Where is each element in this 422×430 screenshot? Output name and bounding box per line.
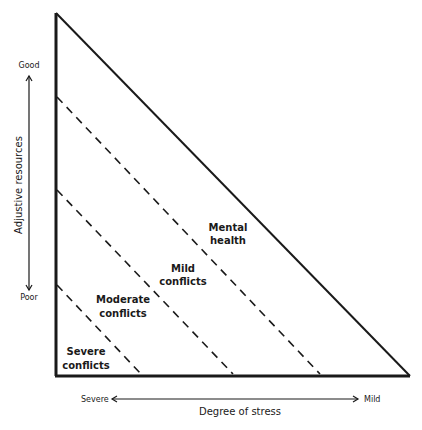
x-axis-right-label: Mild <box>364 395 380 404</box>
zone-label-mental-health: Mental <box>209 222 248 233</box>
boundary-mild-health <box>57 97 320 374</box>
y-axis-top-label: Good <box>18 61 39 70</box>
zone-label-mild: Mild <box>171 263 195 274</box>
zone-label-moderate-2: conflicts <box>99 308 146 319</box>
x-axis-title: Degree of stress <box>199 406 281 417</box>
zone-label-mild-2: conflicts <box>159 276 206 287</box>
zone-label-severe: Severe <box>67 346 106 357</box>
triangle-hypotenuse <box>56 13 410 376</box>
zone-label-moderate: Moderate <box>96 294 150 305</box>
zone-label-mental-health-2: health <box>210 235 246 246</box>
stress-resources-diagram: Severe conflicts Moderate conflicts Mild… <box>0 0 422 430</box>
zone-label-severe-2: conflicts <box>62 360 109 371</box>
y-axis-bottom-label: Poor <box>20 293 38 302</box>
x-axis-left-label: Severe <box>81 395 109 404</box>
y-axis-title: Adjustive resources <box>13 136 24 234</box>
